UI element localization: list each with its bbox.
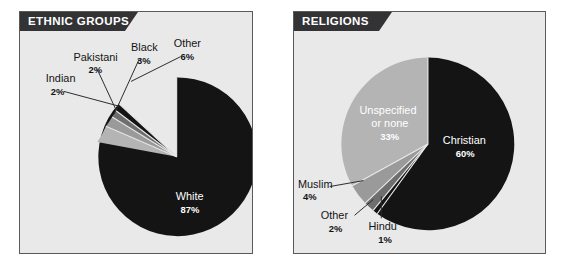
svg-text:33%: 33% [380, 131, 399, 142]
label-black: Black 3% [131, 41, 158, 66]
ethnic-groups-pie-chart: Indian 2% Pakistani 2% Black 3% Other 6%… [20, 12, 252, 253]
banner-ethnic-groups: ETHNIC GROUPS [20, 12, 138, 31]
label-hindu: Hindu 1% [368, 220, 397, 245]
svg-text:1%: 1% [378, 234, 392, 245]
label-other: Other 2% [321, 209, 349, 234]
svg-text:or none: or none [371, 117, 408, 129]
leader-line-pakistani [97, 70, 116, 111]
svg-text:2%: 2% [88, 64, 102, 75]
label-muslim: Muslim 4% [298, 178, 333, 203]
svg-text:Black: Black [131, 41, 158, 53]
svg-text:Indian: Indian [46, 72, 76, 84]
panel-ethnic-groups: Indian 2% Pakistani 2% Black 3% Other 6%… [19, 11, 253, 254]
svg-text:Other: Other [321, 209, 349, 221]
pie-chart-figure: Indian 2% Pakistani 2% Black 3% Other 6%… [0, 0, 563, 276]
svg-text:2%: 2% [329, 223, 343, 234]
label-pakistani: Pakistani 2% [74, 51, 118, 76]
svg-text:2%: 2% [51, 86, 65, 97]
svg-text:Other: Other [174, 37, 202, 49]
svg-text:Muslim: Muslim [298, 178, 333, 190]
banner-religions: RELIGIONS [294, 12, 392, 31]
svg-text:Hindu: Hindu [368, 220, 397, 232]
svg-text:Christian: Christian [443, 134, 486, 146]
banner-label-religions: RELIGIONS [302, 16, 369, 28]
leader-lines [64, 57, 181, 115]
religions-pie-chart: Muslim 4% Other 2% Hindu 1% Unspecified … [294, 12, 545, 253]
svg-text:White: White [176, 190, 204, 202]
svg-text:Pakistani: Pakistani [74, 51, 118, 63]
svg-text:4%: 4% [303, 191, 317, 202]
svg-text:87%: 87% [181, 204, 200, 215]
svg-text:6%: 6% [181, 51, 195, 62]
leader-line-black [114, 60, 139, 115]
svg-text:Unspecified: Unspecified [359, 104, 416, 116]
panel-religions: Muslim 4% Other 2% Hindu 1% Unspecified … [293, 11, 546, 254]
pie-slice-white [98, 77, 252, 236]
banner-label-ethnic-groups: ETHNIC GROUPS [28, 16, 129, 28]
svg-text:3%: 3% [137, 55, 151, 66]
svg-text:60%: 60% [456, 148, 475, 159]
